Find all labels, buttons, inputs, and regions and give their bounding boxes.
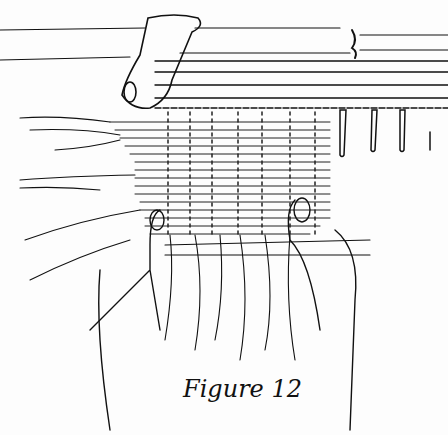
weaving-drawing	[0, 0, 448, 435]
hanging-threads	[165, 235, 370, 360]
background-lines	[0, 28, 448, 60]
loose-threads	[20, 117, 140, 280]
figure-illustration: Figure 12	[0, 0, 448, 435]
heddle-bars	[155, 61, 448, 108]
figure-caption: Figure 12	[183, 375, 302, 403]
woven-fabric	[110, 112, 330, 235]
needles	[340, 110, 430, 157]
knot	[352, 30, 356, 58]
